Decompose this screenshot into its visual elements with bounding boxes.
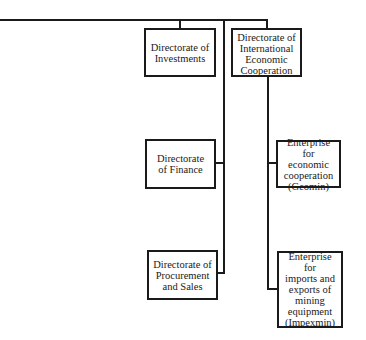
node-label-line: Enterprise for [280,137,337,159]
node-label-line: Economic [237,54,296,65]
node-label-line: economic [280,159,337,170]
trunk-enterprises [267,75,269,290]
node-label-line: Directorate of [151,42,210,53]
node-directorate-procurement: Directorate of Procurement and Sales [147,250,218,300]
node-label-line: and Sales [153,281,212,292]
node-label-line: Directorate of [237,32,296,43]
node-label-line: Procurement [153,270,212,281]
node-directorate-intl-coop: Directorate of International Economic Co… [231,28,302,77]
node-label-line: Directorate [157,153,204,164]
node-label-line: Cooperation [237,65,296,76]
node-label-line: equipment [281,306,339,317]
node-directorate-finance: Directorate of Finance [145,139,216,189]
node-label-line: (Geomin) [280,181,337,192]
node-label-line: of Finance [157,164,204,175]
node-label-line: cooperation [280,170,337,181]
node-label-line: Enterprise for [281,251,339,273]
node-directorate-investments: Directorate of Investments [144,28,216,77]
top-connector-line [0,19,268,21]
node-label-line: Investments [151,53,210,64]
node-label-line: (Impexmin) [281,317,339,328]
connector-procurement [217,272,225,274]
node-label-line: International [237,43,296,54]
connector-finance [215,162,225,164]
trunk-directorates [223,19,225,274]
node-label-line: mining [281,295,339,306]
node-enterprise-geomin: Enterprise for economic cooperation (Geo… [276,140,341,188]
node-label-line: Directorate of [153,259,212,270]
node-label-line: exports of [281,284,339,295]
node-enterprise-impexmin: Enterprise for imports and exports of mi… [277,251,343,328]
node-label-line: imports and [281,273,339,284]
